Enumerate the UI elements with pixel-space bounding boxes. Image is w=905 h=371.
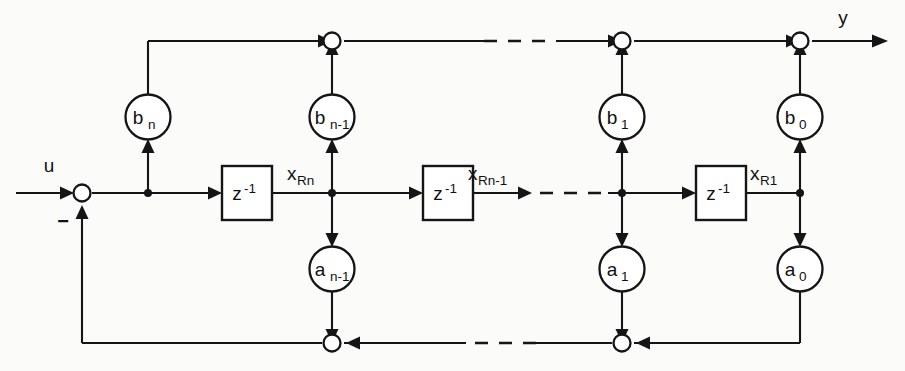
gain-a1-input-wire: [616, 193, 629, 247]
top-rail-segment-3: [556, 35, 622, 48]
sum-input: [74, 185, 91, 202]
delay-block-2-exp: -1: [445, 181, 457, 196]
gain-a0-sub: 0: [799, 269, 807, 284]
gain-an-1-base: a: [315, 259, 326, 280]
sum-input-minus-sign: −: [57, 210, 69, 232]
bottom-rail-segment-2: [344, 337, 466, 350]
input-wire-u: [16, 187, 74, 200]
gain-bn-1-base: b: [315, 107, 326, 128]
gain-bn-sub: n: [148, 117, 156, 132]
delay-block-2-base: z: [433, 183, 443, 204]
state-rail-segment-2: [272, 187, 423, 200]
sum-bottom-2: [614, 335, 631, 352]
gain-a0-input-wire: [794, 193, 807, 247]
sum-bottom-1: [324, 335, 341, 352]
gain-b0-sub: 0: [799, 117, 807, 132]
canonical-form-block-diagram: b n b n-1 b 1 b 0 a: [0, 0, 905, 371]
gain-b1-input-wire: [616, 139, 629, 193]
state-rail-segment-1: [92, 187, 222, 200]
top-rail-segment-4: [634, 35, 800, 48]
gain-an-1-input-wire: [326, 193, 339, 247]
gain-bn-1-input-wire: [326, 139, 339, 193]
feedback-riser-left: [76, 205, 89, 343]
state-rail-segment-3: [473, 187, 532, 200]
sum-top-2: [614, 33, 631, 50]
gain-bn-1-sub: n-1: [330, 117, 350, 132]
state-label-xr1-base: x: [750, 163, 760, 184]
top-rail-segment-1: [148, 35, 332, 48]
gain-a1-base: a: [607, 259, 618, 280]
bottom-rail-segment-4: [634, 337, 800, 350]
gain-b1-sub: 1: [621, 117, 629, 132]
gain-a1-sub: 1: [621, 269, 629, 284]
sum-top-1: [324, 33, 341, 50]
gain-bn-input-wire: [142, 139, 155, 193]
state-label-xrn-1-sub: Rn-1: [478, 173, 507, 188]
output-wire-y: [812, 35, 888, 48]
state-label-xr1-sub: R1: [760, 173, 777, 188]
state-label-xrn-1-base: x: [468, 163, 478, 184]
state-label-xrn-base: x: [287, 163, 297, 184]
state-label-xrn-sub: Rn: [297, 173, 314, 188]
sum-top-3: [792, 33, 809, 50]
gain-bn-base: b: [133, 107, 144, 128]
input-label-u: u: [44, 155, 55, 176]
gain-b0-base: b: [785, 107, 796, 128]
delay-block-3-base: z: [706, 183, 716, 204]
gain-an-1-sub: n-1: [330, 269, 350, 284]
delay-block-3-exp: -1: [718, 181, 730, 196]
block-diagram-canvas: b n b n-1 b 1 b 0 a: [0, 0, 905, 371]
gain-b0-input-wire: [794, 139, 807, 193]
delay-block-1-exp: -1: [244, 181, 256, 196]
tap-point-bn: [144, 189, 152, 197]
delay-block-1-base: z: [232, 183, 242, 204]
gain-a0-base: a: [785, 259, 796, 280]
tap-point-a1: [618, 189, 626, 197]
output-label-y: y: [838, 7, 848, 28]
gain-b1-base: b: [607, 107, 618, 128]
